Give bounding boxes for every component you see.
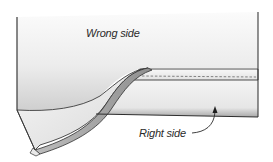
right-side-label: Right side: [139, 127, 186, 139]
wrong-side-label: Wrong side: [86, 27, 140, 39]
fabric-hem-illustration: [0, 0, 273, 162]
